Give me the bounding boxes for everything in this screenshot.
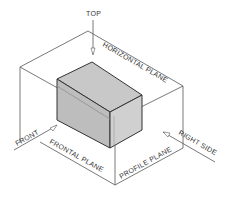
block [57,62,142,148]
top-arrow [91,20,95,55]
arrowhead-icon [50,125,57,131]
projection-diagram: TOP HORIZONTAL PLANE FRONT FRONTAL PLANE… [0,0,225,199]
frontal-plane-bottom [40,142,115,185]
diagram-canvas: TOP HORIZONTAL PLANE FRONT FRONTAL PLANE… [0,0,225,199]
profile-plane-bottom [115,148,183,185]
arrowhead-icon [163,132,170,137]
label-frontal-plane: FRONTAL PLANE [49,138,106,174]
label-profile-plane: PROFILE PLANE [118,145,173,180]
arrowhead-icon [91,48,95,55]
label-top: TOP [86,10,101,17]
